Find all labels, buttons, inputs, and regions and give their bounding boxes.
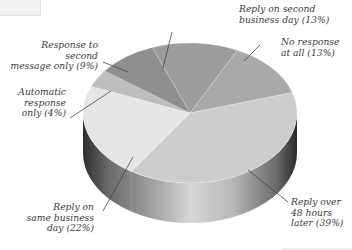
label-response-second-message: Response to second message only (9%): [6, 40, 98, 72]
label-reply-second-business-day: Reply on second business day (13%): [239, 4, 329, 25]
label-reply-over-48-hours: Reply over 48 hours later (39%): [291, 197, 343, 229]
label-reply-same-business-day: Reply on same business day (22%): [22, 202, 94, 234]
label-automatic-response: Automatic response only (4%): [10, 87, 66, 119]
pie-slices: [83, 43, 297, 183]
label-no-response: No response at all (13%): [281, 37, 340, 58]
